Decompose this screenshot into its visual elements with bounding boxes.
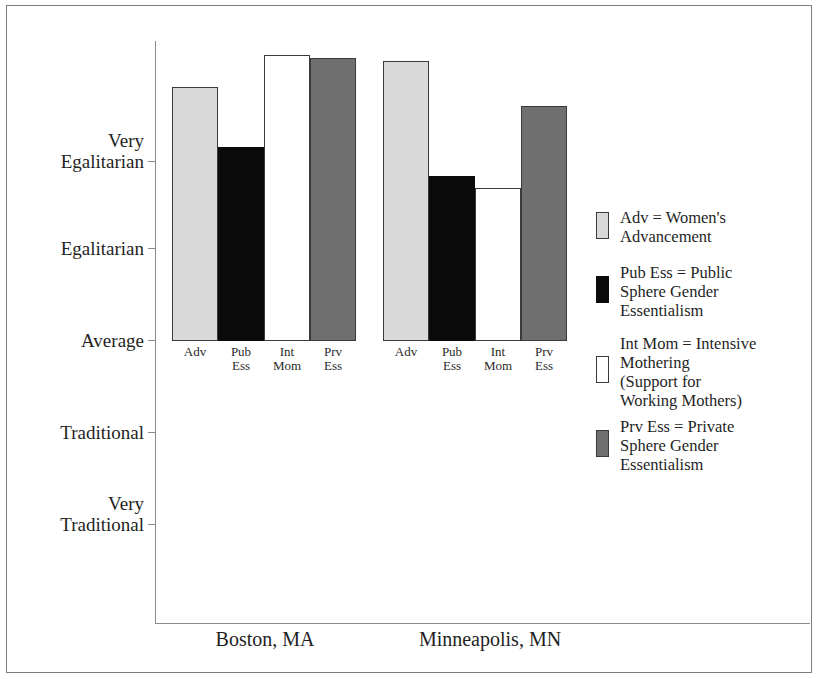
legend-item-int-mom: Int Mom = Intensive Mothering (Support f… bbox=[592, 331, 807, 421]
chart-figure: Very Egalitarian Egalitarian Average Tra… bbox=[0, 0, 820, 679]
bar-minneapolis-pub-ess bbox=[429, 176, 475, 341]
y-tick-traditional bbox=[148, 432, 156, 433]
legend-swatch-pub-ess-icon bbox=[596, 276, 609, 303]
y-tick-very-egalitarian bbox=[148, 161, 156, 162]
bar-label-minneapolis-adv: Adv bbox=[383, 345, 429, 359]
bar-label-boston-int-mom: Int Mom bbox=[264, 345, 310, 373]
legend-item-pub-ess: Pub Ess = Public Sphere Gender Essential… bbox=[592, 260, 807, 330]
legend-swatch-prv-ess-icon bbox=[596, 430, 609, 457]
y-tick-average bbox=[148, 340, 156, 341]
y-axis-label-traditional: Traditional bbox=[0, 422, 144, 443]
y-axis-line bbox=[155, 41, 156, 624]
y-tick-egalitarian bbox=[148, 248, 156, 249]
y-tick-very-traditional bbox=[148, 524, 156, 525]
bar-label-boston-prv-ess: Prv Ess bbox=[310, 345, 356, 373]
bar-minneapolis-int-mom bbox=[475, 188, 521, 341]
x-axis-line bbox=[155, 623, 810, 624]
legend-swatch-int-mom-icon bbox=[596, 356, 609, 383]
bar-label-minneapolis-prv-ess: Prv Ess bbox=[521, 345, 567, 373]
legend-label-pub-ess: Pub Ess = Public Sphere Gender Essential… bbox=[620, 263, 810, 320]
y-axis-label-egalitarian: Egalitarian bbox=[0, 238, 144, 259]
legend-item-prv-ess: Prv Ess = Private Sphere Gender Essentia… bbox=[592, 414, 807, 484]
y-axis-label-very-egalitarian: Very Egalitarian bbox=[0, 130, 144, 172]
y-axis-label-average: Average bbox=[0, 330, 144, 351]
bar-boston-pub-ess bbox=[218, 147, 264, 341]
bar-minneapolis-adv bbox=[383, 61, 429, 341]
group-label-minneapolis: Minneapolis, MN bbox=[390, 628, 590, 650]
bar-minneapolis-prv-ess bbox=[521, 106, 567, 341]
bar-label-minneapolis-pub-ess: Pub Ess bbox=[429, 345, 475, 373]
bar-boston-prv-ess bbox=[310, 58, 356, 341]
legend-item-adv: Adv = Women's Advancement bbox=[592, 205, 807, 259]
legend-label-int-mom: Int Mom = Intensive Mothering (Support f… bbox=[620, 334, 810, 410]
bar-boston-int-mom bbox=[264, 55, 310, 341]
bar-label-boston-adv: Adv bbox=[172, 345, 218, 359]
legend-label-prv-ess: Prv Ess = Private Sphere Gender Essentia… bbox=[620, 417, 810, 474]
bar-boston-adv bbox=[172, 87, 218, 341]
bar-label-boston-pub-ess: Pub Ess bbox=[218, 345, 264, 373]
bar-label-minneapolis-int-mom: Int Mom bbox=[475, 345, 521, 373]
y-axis-label-very-traditional: Very Traditional bbox=[0, 493, 144, 535]
legend-label-adv: Adv = Women's Advancement bbox=[620, 208, 810, 246]
legend-swatch-adv-icon bbox=[596, 212, 609, 239]
group-label-boston: Boston, MA bbox=[180, 628, 350, 650]
